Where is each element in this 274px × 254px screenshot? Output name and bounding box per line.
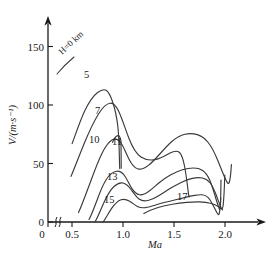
chart-figure: 0 50 100 150 0 0.5 1.0 1.5 2.0 Ma V/(m·s… bbox=[0, 0, 274, 254]
axes-group bbox=[44, 16, 266, 227]
curve-h7 bbox=[79, 134, 232, 213]
y-tick-label-150: 150 bbox=[28, 41, 45, 53]
x-tick-label-1p0: 1.0 bbox=[116, 228, 130, 240]
x-axis-title: Ma bbox=[147, 239, 162, 250]
curve-labels-group: H=0 km 5 7 10 11 13 15 17 bbox=[57, 29, 188, 205]
curve-h5 bbox=[71, 103, 189, 197]
x-tick-label-2p0: 2.0 bbox=[218, 228, 232, 240]
leader-line-h0 bbox=[57, 57, 74, 74]
curve-label-h0: H=0 km bbox=[57, 29, 86, 57]
x-tick-marks bbox=[48, 222, 225, 227]
curve-label-11: 11 bbox=[112, 136, 122, 147]
y-axis-title: V/(m·s⁻¹) bbox=[7, 105, 19, 145]
curve-label-7: 7 bbox=[95, 105, 100, 116]
x-tick-label-0: 0 bbox=[39, 228, 45, 240]
y-tick-label-50: 50 bbox=[33, 158, 45, 170]
curve-label-15: 15 bbox=[104, 194, 115, 205]
y-tick-label-0: 0 bbox=[39, 216, 45, 228]
climb-rate-vs-mach-chart: 0 50 100 150 0 0.5 1.0 1.5 2.0 Ma V/(m·s… bbox=[0, 0, 274, 254]
x-tick-label-0p5: 0.5 bbox=[65, 228, 79, 240]
y-tick-label-100: 100 bbox=[28, 99, 45, 111]
curve-label-5: 5 bbox=[84, 69, 89, 80]
curve-h17 bbox=[144, 202, 223, 214]
x-tick-labels: 0 0.5 1.0 1.5 2.0 bbox=[39, 228, 232, 240]
y-tick-labels: 0 50 100 150 bbox=[28, 41, 45, 229]
y-tick-marks bbox=[48, 47, 53, 223]
x-tick-label-1p5: 1.5 bbox=[167, 228, 181, 240]
curve-label-10: 10 bbox=[89, 134, 100, 145]
curve-h15 bbox=[103, 195, 221, 222]
curve-label-13: 13 bbox=[107, 171, 118, 182]
curve-label-17: 17 bbox=[177, 191, 188, 202]
